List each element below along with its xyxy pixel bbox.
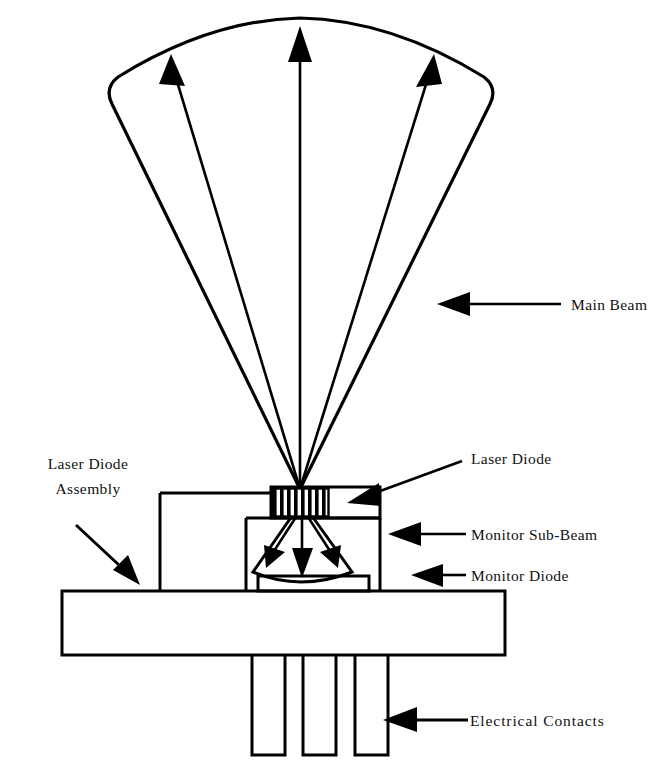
callout-monitor-sub-beam: Monitor Sub-Beam (388, 522, 598, 546)
monitor-sub-beam-label: Monitor Sub-Beam (471, 526, 598, 543)
diagram-canvas: Main Beam Laser Diode Monitor Sub-Beam M… (0, 0, 651, 775)
laser-diode-assembly-label-line2: Assembly (55, 480, 120, 497)
electrical-contacts-label: Electrical Contacts (470, 712, 605, 729)
laser-diode-diagram: Main Beam Laser Diode Monitor Sub-Beam M… (0, 0, 651, 775)
laser-diode-assembly-label-line1: Laser Diode (48, 455, 129, 472)
monitor-diode-label: Monitor Diode (471, 567, 569, 584)
laser-diode-chip (273, 489, 329, 517)
callout-monitor-diode: Monitor Diode (411, 564, 569, 587)
main-beam-label: Main Beam (571, 296, 647, 313)
laser-diode-label: Laser Diode (471, 450, 552, 467)
diagram-background (0, 0, 651, 775)
